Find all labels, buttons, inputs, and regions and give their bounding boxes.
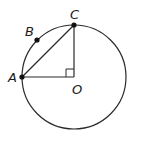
right-angle-marker <box>66 69 74 77</box>
label-o: O <box>72 82 82 97</box>
point-a <box>19 74 24 79</box>
point-b <box>34 37 39 42</box>
label-a: A <box>7 70 17 85</box>
point-c <box>71 22 76 27</box>
label-b: B <box>25 24 34 39</box>
label-c: C <box>70 7 80 22</box>
circle-diagram: A B C O <box>0 0 142 141</box>
